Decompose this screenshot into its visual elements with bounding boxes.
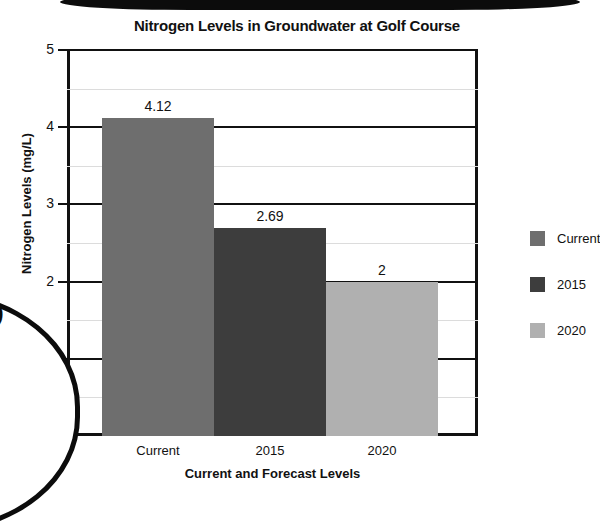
legend-swatch — [530, 277, 545, 292]
y-axis-tick-label: 3 — [46, 195, 54, 211]
legend-swatch — [530, 323, 545, 338]
chart-title: Nitrogen Levels in Groundwater at Golf C… — [0, 17, 594, 34]
legend-label: 2015 — [557, 277, 586, 292]
x-axis-title: Current and Forecast Levels — [67, 466, 478, 481]
y-axis-tick — [58, 49, 67, 51]
y-axis-tick-label: 2 — [46, 273, 54, 289]
y-axis-tick — [58, 126, 67, 128]
legend-item[interactable]: 2015 — [530, 261, 600, 307]
legend-label: 2020 — [557, 323, 586, 338]
plot-area: 543210 4.122.692 Current20152020 — [67, 50, 478, 436]
bar: 2.69 — [214, 228, 326, 436]
legend-item[interactable]: 2020 — [530, 307, 600, 353]
legend-label: Current — [557, 231, 600, 246]
y-axis-tick — [58, 281, 67, 283]
y-axis-tick — [58, 203, 67, 205]
gridline-minor — [67, 89, 478, 90]
gridline-major: 5 — [67, 49, 478, 51]
bar: 2 — [326, 282, 438, 436]
y-axis-tick-label: 5 — [46, 41, 54, 57]
legend-swatch — [530, 231, 545, 246]
y-axis-title: Nitrogen Levels (mg/L) — [19, 104, 34, 304]
callout-oval-top-edge — [60, 0, 580, 10]
bar-value-label: 2 — [378, 262, 386, 278]
y-axis-tick-label: 4 — [46, 118, 54, 134]
callout-partial-text: | ) — [0, 300, 24, 326]
chart-legend: Current20152020 — [530, 215, 600, 353]
x-axis-tick-label: 2015 — [256, 443, 285, 458]
bar-value-label: 4.12 — [144, 98, 171, 114]
x-axis-tick-label: Current — [136, 443, 179, 458]
x-axis-tick-label: 2020 — [368, 443, 397, 458]
bar-value-label: 2.69 — [256, 208, 283, 224]
bar: 4.12 — [102, 118, 214, 436]
legend-item[interactable]: Current — [530, 215, 600, 261]
